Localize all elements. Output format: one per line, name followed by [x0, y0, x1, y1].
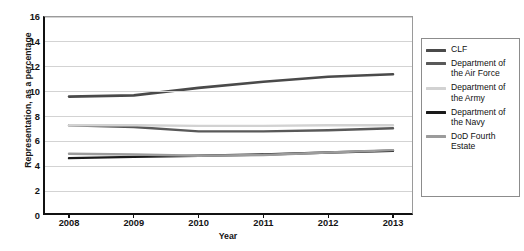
legend-color-swatch [426, 62, 446, 65]
legend-item-label: Department of the Air Force [451, 58, 516, 79]
gridline [45, 66, 412, 67]
x-axis-tick-mark [133, 213, 134, 218]
legend-item-label: Department of the Navy [451, 107, 516, 128]
y-axis-tick-label: 4 [35, 161, 40, 171]
legend-color-swatch [426, 135, 446, 138]
legend-item-label: Department of the Army [451, 82, 516, 103]
x-axis-tick-label: 2013 [383, 218, 404, 228]
y-axis-tick-label: 16 [30, 12, 40, 22]
x-axis-tick-label: 2009 [123, 218, 144, 228]
x-axis-tick-label: 2010 [188, 218, 209, 228]
x-axis-tick-label: 2008 [59, 218, 80, 228]
y-axis-tick-label: 6 [35, 136, 40, 146]
chart-container: Representation, as a percentage 02468101… [0, 0, 524, 251]
gridline [45, 41, 412, 42]
series-line [69, 74, 393, 96]
gridline [45, 91, 412, 92]
legend-color-swatch [426, 49, 446, 52]
gridline [45, 166, 412, 167]
gridline [45, 17, 412, 18]
plot-area: 0246810121416200820092010201120122013 [43, 16, 413, 215]
series-line [69, 150, 393, 156]
x-axis-tick-mark [392, 213, 393, 218]
gridline [45, 141, 412, 142]
x-axis-tick-mark [198, 213, 199, 218]
x-axis-title: Year [43, 231, 413, 241]
chart-legend: CLFDepartment of the Air ForceDepartment… [421, 38, 520, 197]
legend-item[interactable]: DoD Fourth Estate [426, 131, 516, 152]
series-line [69, 125, 393, 126]
legend-item[interactable]: Department of the Air Force [426, 58, 516, 79]
legend-item[interactable]: CLF [426, 44, 516, 54]
legend-item-label: CLF [451, 44, 467, 54]
legend-item[interactable]: Department of the Navy [426, 107, 516, 128]
y-axis-tick-label: 2 [35, 186, 40, 196]
legend-item[interactable]: Department of the Army [426, 82, 516, 103]
x-axis-tick-mark [68, 213, 69, 218]
y-axis-tick-label: 12 [30, 62, 40, 72]
y-axis-tick-label: 8 [35, 112, 40, 122]
legend-color-swatch [426, 111, 446, 114]
legend-color-swatch [426, 87, 446, 90]
y-axis-tick-label: 0 [35, 211, 40, 221]
gridline [45, 191, 412, 192]
x-axis-tick-mark [328, 213, 329, 218]
y-axis-tick-label: 10 [30, 87, 40, 97]
x-axis-tick-label: 2011 [253, 218, 273, 228]
y-axis-tick-label: 14 [30, 37, 40, 47]
legend-item-label: DoD Fourth Estate [451, 131, 516, 152]
gridline [45, 116, 412, 117]
x-axis-tick-mark [263, 213, 264, 218]
x-axis-tick-label: 2012 [318, 218, 339, 228]
